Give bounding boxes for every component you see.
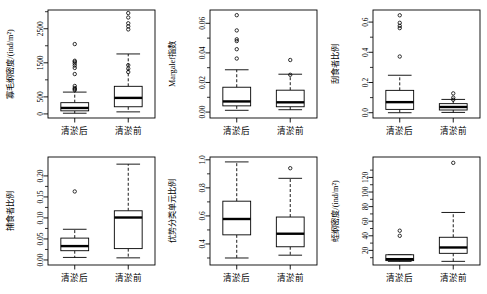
panel-6: 20406080100120蛭纲密度/(ind/m²)清淤后清淤前 [325, 147, 487, 294]
boxplot-chart-2: 0.000.020.040.06Margalef指数清淤后清淤前 [162, 0, 324, 147]
box-group: 清淤前 [277, 58, 305, 136]
outlier-point [398, 55, 401, 58]
x-tick-label: 清淤后 [386, 125, 413, 136]
y-tick-label: 0.8 [198, 183, 207, 193]
y-tick-label: 1.0 [198, 155, 207, 165]
outlier-point [73, 72, 76, 75]
panel-4: 0.000.050.100.150.20捕食者比例清淤后清淤前 [0, 147, 162, 294]
boxplot-chart-3: 0.00.20.40.6刮食者比例清淤后清淤前 [325, 0, 487, 147]
x-tick-label: 清淤前 [277, 125, 304, 136]
boxplot-chart-1: 050015002500寡毛纲密度/(ind/m²)清淤后清淤前 [0, 0, 162, 147]
y-tick-label: 1500 [36, 55, 45, 70]
outlier-point [398, 234, 401, 237]
box-group: 清淤前 [439, 92, 467, 136]
box-iqr [114, 86, 142, 106]
box-iqr [277, 217, 305, 247]
box-group: 清淤后 [61, 42, 89, 136]
y-tick-label: 0.04 [198, 46, 207, 59]
x-tick-label: 清淤后 [224, 125, 251, 136]
outlier-point [451, 96, 454, 99]
outlier-point [235, 48, 238, 51]
y-tick-label: 0 [36, 112, 45, 116]
boxplot-figure-grid: 050015002500寡毛纲密度/(ind/m²)清淤后清淤前 0.000.0… [0, 0, 487, 294]
boxplot-chart-5: 0.40.60.81.0优势分类单元比例清淤后清淤前 [162, 147, 324, 294]
x-tick-label: 清淤前 [439, 125, 466, 136]
y-tick-label: 100 [361, 186, 370, 197]
outlier-point [451, 92, 454, 95]
y-tick-label: 120 [361, 172, 370, 183]
panel-2: 0.000.020.040.06Margalef指数清淤后清淤前 [162, 0, 324, 147]
outlier-point [398, 229, 401, 232]
x-tick-label: 清淤后 [386, 272, 413, 283]
y-tick-label: 0.4 [198, 239, 207, 249]
y-tick-label: 40 [361, 232, 370, 240]
box-group: 清淤后 [61, 190, 89, 283]
outlier-point [398, 14, 401, 17]
box-iqr [277, 90, 305, 107]
y-tick-label: 0.00 [198, 105, 207, 118]
box-iqr [439, 237, 467, 253]
y-tick-label: 0.10 [36, 211, 45, 224]
y-axis-title: 蛭纲密度/(ind/m²) [330, 180, 340, 242]
y-tick-label: 2500 [36, 21, 45, 36]
y-tick-label: 0.20 [36, 169, 45, 182]
y-tick-label: 0.2 [361, 78, 370, 88]
y-tick-label: 0.4 [361, 47, 370, 57]
outlier-point [451, 161, 454, 164]
x-tick-label: 清淤前 [115, 125, 142, 136]
y-tick-label: 0.6 [198, 211, 207, 221]
y-tick-label: 0.05 [36, 232, 45, 245]
outlier-point [127, 16, 130, 19]
panel-3: 0.00.20.40.6刮食者比例清淤后清淤前 [325, 0, 487, 147]
outlier-point [235, 13, 238, 16]
x-tick-label: 清淤后 [61, 272, 88, 283]
box-iqr [385, 90, 413, 109]
x-tick-label: 清淤后 [224, 272, 251, 283]
box-iqr [223, 87, 251, 106]
y-axis-title: 捕食者比例 [5, 191, 15, 231]
y-tick-label: 0.06 [198, 17, 207, 30]
outlier-point [289, 167, 292, 170]
outlier-point [289, 58, 292, 61]
y-axis-title: Margalef指数 [167, 41, 177, 87]
outlier-point [235, 57, 238, 60]
panel-1: 050015002500寡毛纲密度/(ind/m²)清淤后清淤前 [0, 0, 162, 147]
y-axis-title: 寡毛纲密度/(ind/m²) [5, 29, 15, 99]
x-tick-label: 清淤前 [115, 272, 142, 283]
y-tick-label: 80 [361, 203, 370, 211]
outlier-point [235, 29, 238, 32]
y-tick-label: 500 [36, 91, 45, 102]
y-tick-label: 0.0 [361, 108, 370, 118]
y-tick-label: 0.00 [36, 253, 45, 266]
y-tick-label: 60 [361, 217, 370, 225]
box-group: 清淤前 [277, 167, 305, 283]
box-iqr [61, 238, 89, 251]
panel-5: 0.40.60.81.0优势分类单元比例清淤后清淤前 [162, 147, 324, 294]
outlier-point [127, 11, 130, 14]
y-tick-label: 0.6 [361, 17, 370, 27]
y-axis-title: 优势分类单元比例 [167, 179, 177, 243]
x-tick-label: 清淤前 [439, 272, 466, 283]
boxplot-chart-4: 0.000.050.100.150.20捕食者比例清淤后清淤前 [0, 147, 162, 294]
y-axis-title: 刮食者比例 [330, 44, 340, 84]
y-tick-label: 0.02 [198, 76, 207, 89]
y-tick-label: 20 [361, 246, 370, 254]
outlier-point [73, 42, 76, 45]
outlier-point [73, 190, 76, 193]
box-group: 清淤前 [114, 11, 142, 136]
boxplot-chart-6: 20406080100120蛭纲密度/(ind/m²)清淤后清淤前 [325, 147, 487, 294]
y-tick-label: 0.15 [36, 190, 45, 203]
x-tick-label: 清淤前 [277, 272, 304, 283]
x-tick-label: 清淤后 [61, 125, 88, 136]
box-group: 清淤后 [385, 229, 413, 283]
